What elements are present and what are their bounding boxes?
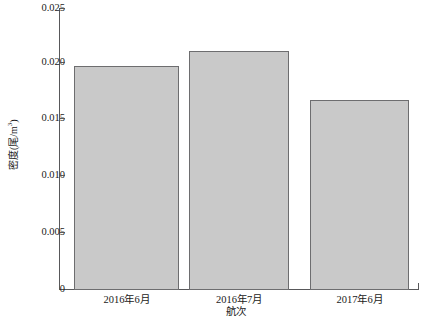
bar-2016-07 [189, 51, 289, 290]
y-tick-mark [60, 8, 65, 9]
bar-2017-06 [310, 100, 409, 290]
y-tick-mark [60, 118, 65, 119]
y-axis-line [59, 8, 60, 290]
x-tick-label-2017-06: 2017年6月 [310, 293, 409, 306]
y-tick-0.005: 0.005 [0, 227, 65, 238]
x-axis-title-text: 航次 [226, 306, 246, 317]
y-tick-mark [60, 62, 65, 63]
y-tick-mark [60, 232, 65, 233]
x-tick-label-2016-06: 2016年6月 [74, 293, 179, 306]
y-tick-label: 0.015 [19, 113, 65, 124]
y-tick-label: 0.005 [19, 227, 65, 238]
y-tick-0.020: 0.020 [0, 57, 65, 68]
bar-2016-06 [74, 66, 179, 290]
y-tick-0.025: 0.025 [0, 3, 65, 14]
y-axis-title: 密度(尾/m3) [5, 90, 18, 200]
x-tick-label-2016-07: 2016年7月 [189, 293, 289, 306]
y-tick-label: 0.025 [19, 3, 65, 14]
y-tick-label: 0.020 [19, 57, 65, 68]
x-axis-title: 航次 [0, 306, 431, 318]
bar-chart: 0.025 0.020 0.015 0.010 0.005 0 2016年6月 … [0, 0, 431, 322]
y-tick-mark [60, 175, 65, 176]
y-axis-title-superscript: 3 [6, 123, 14, 127]
y-tick-label: 0 [19, 284, 65, 295]
y-tick-0: 0 [0, 284, 65, 295]
y-axis-title-tail: ) [8, 119, 19, 122]
x-axis-end-tick [418, 283, 419, 289]
y-tick-label: 0.010 [19, 170, 65, 181]
y-axis-title-base: 密度(尾/m [8, 126, 19, 170]
